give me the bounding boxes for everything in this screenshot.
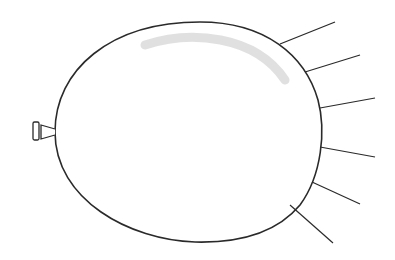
balloon-highlight	[145, 37, 285, 80]
balloon-diagram: Balloon with radiating lines	[0, 0, 395, 260]
balloon-svg	[0, 0, 395, 260]
balloon-nozzle-neck	[41, 125, 55, 139]
ray-line-2	[305, 55, 360, 72]
ray-line-4	[320, 147, 375, 157]
ray-line-3	[320, 98, 375, 108]
ray-line-5	[312, 182, 360, 204]
ray-line-1	[280, 22, 335, 44]
balloon-outline	[55, 22, 322, 242]
balloon-nozzle-ring	[33, 122, 39, 140]
radiating-lines	[280, 22, 375, 243]
ray-line-6	[290, 205, 333, 243]
